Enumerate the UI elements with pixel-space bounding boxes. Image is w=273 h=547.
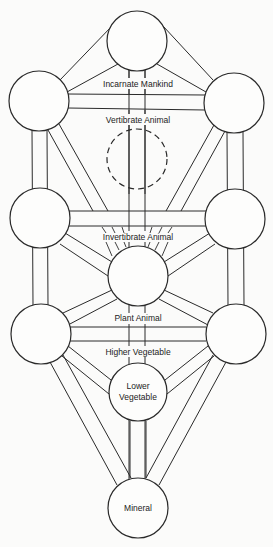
channel-through-dashed: [129, 125, 145, 194]
channel-upper-horizontal: [68, 94, 205, 110]
node-upper-right: [204, 73, 264, 133]
label-ticks: [102, 70, 172, 256]
label-invertibrate-animal: Invertibrate Animal: [103, 232, 174, 242]
node-center: [108, 246, 168, 306]
node-lower-right: [206, 304, 266, 364]
label-lower-vegetable-line1: Lower: [126, 381, 149, 391]
label-vertibrate-animal: Vertibrate Animal: [106, 115, 170, 125]
label-incarnate-mankind: Incarnate Mankind: [103, 79, 173, 89]
label-higher-vegetable: Higher Vegetable: [105, 347, 170, 357]
channel-lowerveg-mineral: [130, 421, 146, 478]
tree-of-life-diagram: Incarnate Mankind Vertibrate Animal Inve…: [0, 0, 273, 547]
node-lower-left: [11, 304, 71, 364]
node-top: [107, 11, 167, 71]
node-hidden-dashed: [107, 129, 167, 189]
node-upper-left: [9, 71, 69, 131]
channel-middle-horizontal: [69, 211, 206, 226]
node-middle-right: [205, 189, 265, 249]
label-mineral: Mineral: [124, 503, 152, 513]
channel-lower-horizontal: [70, 327, 206, 341]
label-lower-vegetable-line2: Vegetable: [119, 392, 157, 402]
node-middle-left: [10, 188, 70, 248]
label-plant-animal: Plant Animal: [114, 313, 161, 323]
